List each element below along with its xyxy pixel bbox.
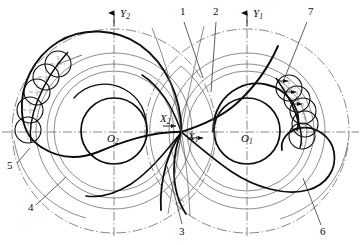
y2-axis-label: Y2 <box>120 8 130 19</box>
center-label-o1: O1 <box>241 133 253 144</box>
right-bold-hub-flank <box>213 84 298 132</box>
y1-axis-label: Y1 <box>253 8 263 19</box>
thin-construction-curve-a <box>152 28 190 216</box>
callout-label-2: 2 <box>213 6 219 17</box>
callout-label-3: 3 <box>179 226 185 237</box>
thin-construction-curve-b <box>168 26 204 214</box>
right-bold-envelope <box>182 46 279 132</box>
callout-label-6: 6 <box>320 226 326 237</box>
leader-line-1 <box>184 22 203 78</box>
leader-line-5 <box>17 148 30 163</box>
callout-label-1: 1 <box>180 6 186 17</box>
leader-line-4 <box>36 177 66 205</box>
leader-line-7 <box>283 22 307 82</box>
diagram-canvas: Y2 Y1 X2 X1 O2 O1 1 2 3 4 5 6 7 <box>0 0 361 245</box>
left-bold-hub-flank <box>74 84 147 131</box>
center-label-o2: O2 <box>107 133 119 144</box>
cycloidal-gearing-figure <box>0 0 361 245</box>
right-bold-lower-envelope <box>182 128 335 192</box>
x1-axis-label: X1 <box>188 131 198 142</box>
callout-label-4: 4 <box>28 202 34 213</box>
callout-label-7: 7 <box>308 6 314 17</box>
callout-label-5: 5 <box>7 160 13 171</box>
left-rolling-circle-chain <box>15 51 71 143</box>
x2-axis-label: X2 <box>160 113 170 124</box>
left-bold-root-flank <box>86 132 182 196</box>
lower-construction-arcs <box>14 140 348 219</box>
left-rolling-circle-centres <box>22 56 66 140</box>
